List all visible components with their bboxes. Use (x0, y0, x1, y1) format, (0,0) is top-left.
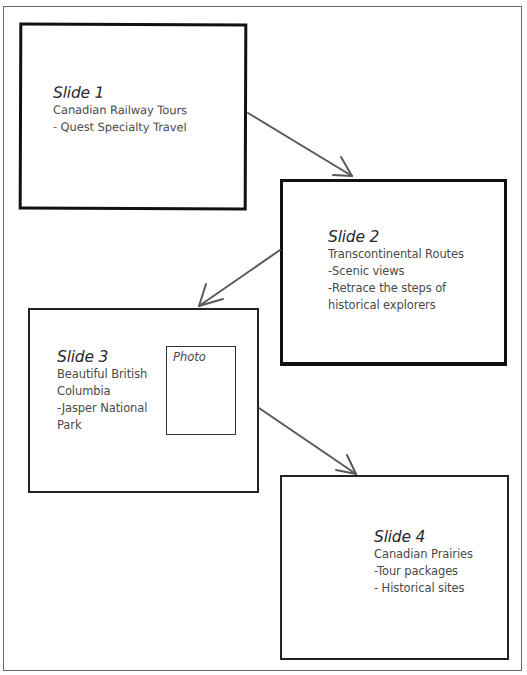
slide-1-line-2: - Quest Specialty Travel (53, 119, 187, 136)
slide-2-line-4: historical explorers (328, 297, 464, 314)
photo-label: Photo (173, 350, 206, 364)
slide-4-line-1: Canadian Prairies (374, 546, 473, 563)
slide-1-box: Slide 1 Canadian Railway Tours - Quest S… (19, 23, 248, 211)
slide-4-line-2: -Tour packages (374, 563, 473, 580)
slide-4-content: Slide 4 Canadian Prairies -Tour packages… (374, 528, 473, 597)
slide-3-line-4: Park (57, 417, 147, 434)
slide-2-title: Slide 2 (328, 228, 464, 246)
slide-2-box: Slide 2 Transcontinental Routes -Scenic … (280, 179, 507, 366)
slide-2-line-1: Transcontinental Routes (328, 246, 464, 263)
slide-3-box: Slide 3 Beautiful British Columbia -Jasp… (28, 308, 259, 493)
slide-3-content: Slide 3 Beautiful British Columbia -Jasp… (57, 348, 147, 434)
slide-1-title: Slide 1 (53, 84, 187, 102)
slide-2-line-2: -Scenic views (328, 263, 464, 280)
slide-1-content: Slide 1 Canadian Railway Tours - Quest S… (53, 84, 187, 136)
photo-placeholder: Photo (166, 346, 236, 435)
slide-3-line-2: Columbia (57, 383, 147, 400)
slide-4-box: Slide 4 Canadian Prairies -Tour packages… (280, 475, 509, 660)
slide-1-line-1: Canadian Railway Tours (53, 102, 187, 119)
slide-3-line-1: Beautiful British (57, 366, 147, 383)
slide-4-line-3: - Historical sites (374, 580, 473, 597)
slide-2-content: Slide 2 Transcontinental Routes -Scenic … (328, 228, 464, 314)
slide-3-line-3: -Jasper National (57, 400, 147, 417)
slide-4-title: Slide 4 (374, 528, 473, 546)
slide-3-title: Slide 3 (57, 348, 147, 366)
slide-2-line-3: -Retrace the steps of (328, 280, 464, 297)
